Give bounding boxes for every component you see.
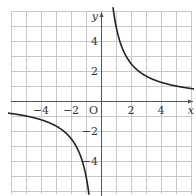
tick-labels: −4−22442−2−4Oxy [33, 10, 195, 168]
plot-area: −4−22442−2−4Oxy [0, 0, 196, 196]
x-tick-label: 4 [158, 104, 165, 117]
y-axis-arrow-icon [100, 12, 104, 17]
x-tick-label: −2 [63, 104, 79, 117]
y-tick-label: −4 [82, 155, 98, 168]
x-axis-label: x [188, 104, 195, 117]
y-tick-label: 2 [91, 65, 98, 78]
hyperbola-graph: −4−22442−2−4Oxy [0, 0, 196, 196]
origin-label: O [89, 104, 98, 117]
curve-left-branch [8, 113, 89, 195]
y-tick-label: −2 [82, 125, 98, 138]
y-tick-label: 4 [91, 35, 98, 48]
x-tick-label: 2 [128, 104, 135, 117]
y-axis-label: y [91, 10, 99, 23]
x-tick-label: −4 [33, 104, 49, 117]
curve-right-branch [113, 7, 194, 89]
x-axis-arrow-icon [188, 100, 193, 104]
